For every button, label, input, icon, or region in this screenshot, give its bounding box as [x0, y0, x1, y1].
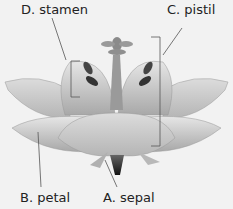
label-stamen: D. stamen	[21, 2, 88, 17]
label-sepal: A. sepal	[103, 190, 155, 205]
label-pistil: C. pistil	[167, 2, 215, 17]
flower-diagram	[0, 0, 233, 209]
label-petal: B. petal	[20, 190, 70, 205]
front-petals	[12, 113, 221, 156]
stem	[110, 155, 124, 175]
